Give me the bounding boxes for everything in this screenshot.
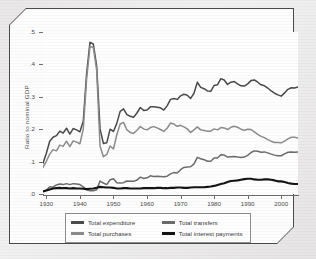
y-tick-label: .3 — [9, 94, 35, 100]
x-tick-mark — [147, 195, 148, 199]
legend-swatch-total-purchases — [71, 232, 84, 235]
legend-swatch-total-expenditure — [71, 221, 84, 224]
y-tick-label: .4 — [9, 61, 35, 67]
series-line-total-transfers — [43, 151, 298, 191]
legend-label-total-transfers: Total transfers — [179, 219, 218, 226]
legend-row: Total expenditure Total transfers — [71, 217, 245, 228]
legend-item-total-expenditure: Total expenditure — [71, 219, 162, 226]
y-tick-label: .2 — [9, 126, 35, 132]
plot-area — [43, 32, 298, 194]
x-tick-label: 1940 — [65, 200, 95, 207]
x-tick-mark — [214, 195, 215, 199]
legend-swatch-total-interest-payments — [162, 232, 175, 235]
x-tick-mark — [46, 195, 47, 199]
y-tick-label: .5 — [9, 29, 35, 35]
legend-item-total-interest-payments: Total interest payments — [162, 230, 245, 237]
legend-label-total-interest-payments: Total interest payments — [179, 230, 243, 237]
x-tick-label: 1930 — [31, 200, 61, 207]
x-tick-mark — [80, 195, 81, 199]
x-tick-label: 2000 — [266, 200, 296, 207]
series-lines — [43, 32, 298, 194]
x-tick-mark — [181, 195, 182, 199]
legend-label-total-expenditure: Total expenditure — [88, 219, 135, 226]
x-tick-label: 1950 — [98, 200, 128, 207]
legend-item-total-transfers: Total transfers — [162, 219, 245, 226]
y-tick-label: .0 — [9, 191, 35, 197]
legend-row: Total purchases Total interest payments — [71, 228, 245, 239]
x-tick-label: 1990 — [233, 200, 263, 207]
x-tick-mark — [113, 195, 114, 199]
chart-legend: Total expenditure Total transfers Total … — [65, 213, 251, 243]
x-tick-mark — [248, 195, 249, 199]
chart-figure: Ratio to nominal GDP .0.1.2.3.4.5 193019… — [9, 8, 294, 244]
x-tick-label: 1960 — [132, 200, 162, 207]
x-tick-label: 1980 — [199, 200, 229, 207]
series-line-total-expenditure — [43, 42, 298, 163]
y-tick-mark — [39, 194, 43, 195]
x-tick-label: 1970 — [166, 200, 196, 207]
page-background: Ratio to nominal GDP .0.1.2.3.4.5 193019… — [0, 0, 316, 259]
y-tick-label: .1 — [9, 159, 35, 165]
legend-item-total-purchases: Total purchases — [71, 230, 162, 237]
series-line-total-purchases — [43, 47, 298, 168]
legend-label-total-purchases: Total purchases — [88, 230, 131, 237]
x-tick-mark — [281, 195, 282, 199]
legend-swatch-total-transfers — [162, 221, 175, 224]
